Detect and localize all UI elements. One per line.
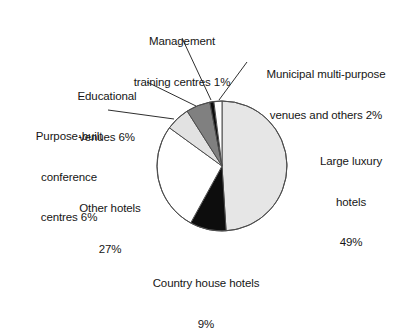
label-line: Purpose-built xyxy=(8,130,130,144)
label-line: Country house hotels xyxy=(128,277,284,291)
label-line: 9% xyxy=(128,318,284,332)
label-line: venues and others 2% xyxy=(243,109,409,123)
label-line: 49% xyxy=(298,236,404,250)
label-line: Educational xyxy=(52,90,162,104)
label-country-house-hotels: Country house hotels 9% xyxy=(128,250,284,332)
label-line: Large luxury xyxy=(298,155,404,169)
label-line: hotels xyxy=(298,196,404,210)
label-line: Management xyxy=(112,35,252,49)
label-line: Other hotels xyxy=(58,202,162,216)
label-large-luxury-hotels: Large luxury hotels 49% xyxy=(298,128,404,277)
label-line: Municipal multi-purpose xyxy=(243,68,409,82)
